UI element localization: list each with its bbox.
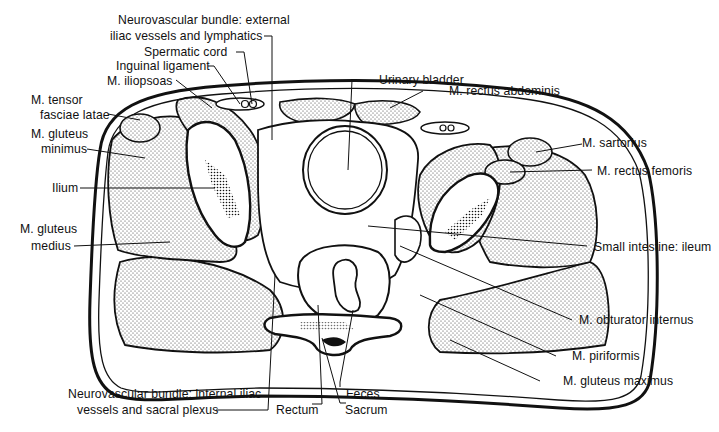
external-iliac-bundle-right (421, 122, 469, 134)
label-rectus-femoris: M. rectus femoris (597, 164, 692, 178)
anatomy-drawing (0, 0, 719, 432)
label-obturator-internus: M. obturator internus (579, 313, 694, 327)
label-tensor-fasciae-latae-line1: M. tensor (31, 93, 83, 107)
label-rectum: Rectum (276, 403, 319, 417)
label-rectus-abdominis: M. rectus abdominis (449, 84, 560, 98)
label-gluteus-maximus: M. gluteus maximus (563, 374, 673, 388)
label-gluteus-medius-line2: medius (31, 239, 71, 253)
label-feces: Feces (346, 387, 380, 401)
rectus-abdominis-right (355, 101, 420, 125)
label-gluteus-medius-line1: M. gluteus (20, 222, 77, 236)
pelvis-cross-section-figure: Neurovascular bundle: external iliac ves… (0, 0, 719, 432)
sacrum (265, 314, 402, 355)
label-neurovascular-external-line1: Neurovascular bundle: external (118, 13, 290, 27)
urinary-bladder (303, 126, 387, 214)
label-neurovascular-internal-line2: vessels and sacral plexus (77, 403, 218, 417)
label-inguinal-ligament: Inguinal ligament (116, 59, 210, 73)
label-neurovascular-external-line2: iliac vessels and lymphatics (110, 29, 263, 43)
obturator-internus-right (395, 216, 421, 262)
label-ilium: Ilium (52, 181, 78, 195)
label-sacrum: Sacrum (345, 403, 388, 417)
label-spermatic-cord: Spermatic cord (144, 45, 227, 59)
label-tensor-fasciae-latae-line2: fasciae latae (40, 108, 110, 122)
label-iliopsoas: M. iliopsoas (107, 74, 173, 88)
label-gluteus-minimus-line1: M. gluteus (31, 127, 88, 141)
rectus-abdominis-left (280, 98, 355, 122)
label-gluteus-minimus-line2: minimus (41, 142, 87, 156)
label-piriformis: M. piriformis (572, 349, 640, 363)
label-neurovascular-internal-line1: Neurovascular bundle: internal iliac (68, 387, 261, 401)
gluteus-maximus-left (115, 257, 284, 352)
tensor-fasciae-latae-left (120, 114, 160, 142)
label-sartorius: M. sartorius (582, 136, 647, 150)
label-small-intestine-ileum: Small intestine: ileum (594, 240, 711, 254)
